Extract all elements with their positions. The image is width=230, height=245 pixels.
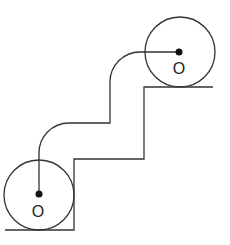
diagram-canvas: O O [0, 0, 230, 245]
bottom-wheel-label: O [32, 203, 44, 220]
top-wheel-label: O [173, 60, 185, 77]
cable [39, 52, 179, 194]
top-center-dot [176, 49, 183, 56]
bottom-center-dot [36, 191, 43, 198]
